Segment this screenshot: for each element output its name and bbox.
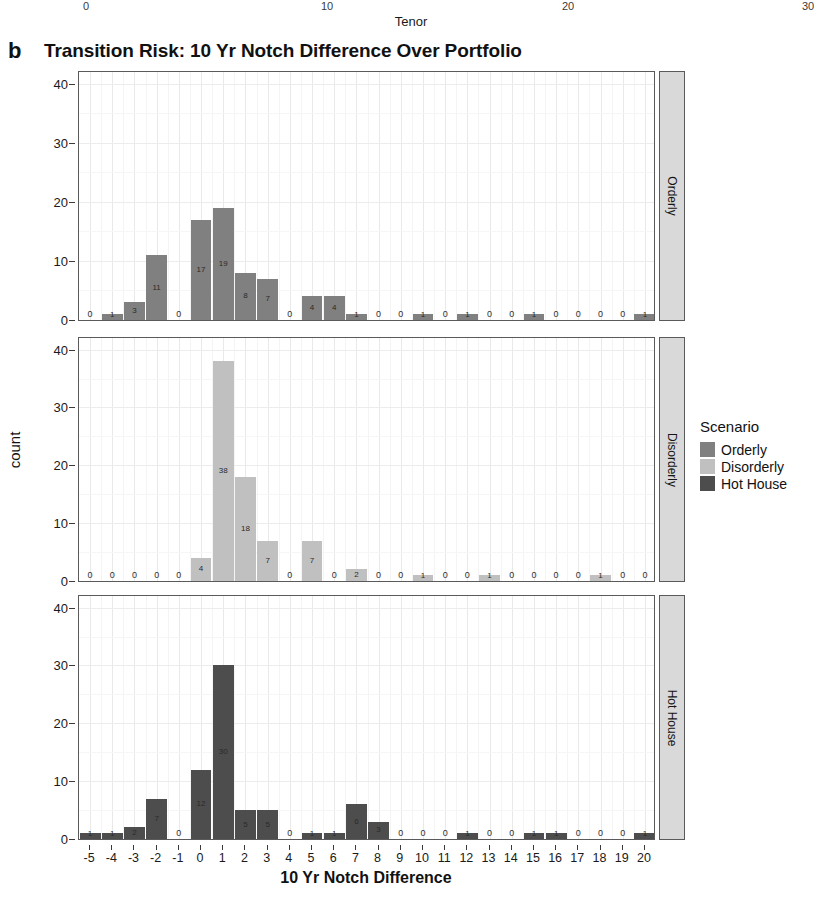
gridline-horizontal [79, 202, 654, 203]
gridline-vertical [578, 338, 579, 581]
x-axis-tick-mark [289, 845, 290, 850]
top-axis-tick-10: 10 [321, 0, 333, 12]
gridline-vertical [534, 338, 535, 581]
legend-item-orderly[interactable]: Orderly [700, 441, 787, 458]
gridline-horizontal [79, 143, 654, 144]
gridline-vertical [245, 596, 246, 839]
bar-value-label: 5 [243, 821, 247, 829]
gridline-vertical [512, 72, 513, 320]
gridline-vertical [512, 596, 513, 839]
y-axis-orderly: 010203040 [0, 71, 78, 321]
bar-value-label: 4 [199, 565, 203, 573]
gridline-vertical [467, 338, 468, 581]
gridline-vertical-minor [390, 72, 391, 320]
gridline-vertical [623, 72, 624, 320]
gridline-vertical-minor [279, 338, 280, 581]
bar-value-label-zero: 0 [620, 571, 625, 580]
x-axis-tick-mark [267, 845, 268, 850]
y-axis-tick-mark [69, 581, 75, 582]
gridline-vertical-minor [478, 596, 479, 839]
bar-value-label: 1 [554, 830, 558, 838]
gridline-vertical-minor [168, 596, 169, 839]
gridline-vertical [423, 338, 424, 581]
bar-value-label: 7 [265, 557, 269, 565]
bar-value-label-zero: 0 [598, 310, 603, 319]
bar-value-label: 4 [332, 304, 336, 312]
gridline-vertical-minor [434, 72, 435, 320]
x-axis-tick-label: 1 [219, 851, 226, 865]
bar-value-label: 1 [532, 311, 536, 319]
gridline-vertical [112, 338, 113, 581]
y-axis-tick-label: 0 [61, 832, 68, 847]
gridline-vertical [645, 338, 646, 581]
x-axis-tick-label: 12 [459, 851, 473, 865]
y-axis-tick-mark [69, 202, 75, 203]
gridline-vertical [445, 72, 446, 320]
strip-text-hothouse: Hot House [665, 689, 679, 746]
gridline-vertical [401, 72, 402, 320]
bar-value-label: 7 [310, 557, 314, 565]
bar-value-label: 1 [465, 830, 469, 838]
gridline-vertical [179, 72, 180, 320]
x-axis-tick-label: 6 [330, 851, 337, 865]
y-axis-tick-mark [69, 465, 75, 466]
gridline-vertical [490, 338, 491, 581]
bar-value-label-zero: 0 [620, 829, 625, 838]
y-axis-tick-label: 20 [54, 458, 68, 473]
bar-value-label-zero: 0 [620, 310, 625, 319]
gridline-vertical [356, 338, 357, 581]
gridline-vertical-minor [501, 596, 502, 839]
x-axis-tick-label: 5 [308, 851, 315, 865]
y-axis-tick-label: 30 [54, 400, 68, 415]
x-axis-tick-mark [489, 845, 490, 850]
gridline-vertical-minor [190, 338, 191, 581]
gridline-vertical-minor [279, 72, 280, 320]
gridline-horizontal [79, 84, 654, 85]
gridline-vertical [312, 72, 313, 320]
gridline-vertical [290, 72, 291, 320]
gridline-horizontal [79, 407, 654, 408]
y-axis-tick-mark [69, 608, 75, 609]
legend-label-hothouse: Hot House [721, 476, 787, 492]
x-axis-tick-label: 11 [438, 851, 451, 865]
x-axis-tick-label: 13 [482, 851, 496, 865]
gridline-vertical [623, 596, 624, 839]
gridline-vertical-minor [323, 596, 324, 839]
bar-value-label: 1 [487, 572, 491, 580]
x-axis-tick-mark [533, 845, 534, 850]
bar-value-label: 1 [332, 830, 336, 838]
gridline-vertical-minor [456, 338, 457, 581]
gridline-vertical [467, 596, 468, 839]
y-axis-tick-mark [69, 723, 75, 724]
gridline-vertical [556, 72, 557, 320]
gridline-horizontal-minor [79, 172, 654, 173]
top-axis-fragment: 0 10 20 30 Tenor [0, 0, 822, 36]
gridline-vertical-minor [589, 338, 590, 581]
bar-value-label: 1 [310, 830, 314, 838]
gridline-horizontal-minor [79, 494, 654, 495]
legend-item-hothouse[interactable]: Hot House [700, 475, 787, 492]
bar-value-label: 1 [110, 830, 114, 838]
strip-text-orderly: Orderly [665, 176, 679, 215]
legend-item-disorderly[interactable]: Disorderly [700, 458, 787, 475]
gridline-horizontal-minor [79, 694, 654, 695]
gridline-vertical [90, 338, 91, 581]
x-axis-tick-mark [355, 845, 356, 850]
gridline-vertical-minor [368, 338, 369, 581]
gridline-vertical-minor [523, 72, 524, 320]
bar-value-label-zero: 0 [420, 829, 425, 838]
y-axis-tick-label: 40 [54, 76, 68, 91]
gridline-vertical-minor [567, 338, 568, 581]
gridline-horizontal-minor [79, 752, 654, 753]
legend-swatch-hothouse [700, 476, 715, 491]
strip-label-hothouse: Hot House [659, 595, 685, 840]
x-axis-tick-label: 9 [396, 851, 403, 865]
gridline-vertical-minor [168, 72, 169, 320]
bar-value-label: 7 [154, 815, 158, 823]
gridline-vertical-minor [456, 596, 457, 839]
top-axis-tick-0: 0 [83, 0, 89, 12]
gridline-vertical [601, 72, 602, 320]
bar-value-label-zero: 0 [88, 571, 93, 580]
gridline-vertical [356, 72, 357, 320]
bar-value-label: 7 [265, 295, 269, 303]
